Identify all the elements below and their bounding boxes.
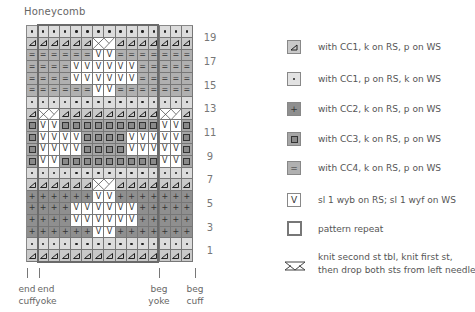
knit-cc4-cell: = [160,61,171,73]
knit-cc1-cell [182,179,193,191]
marker-label: beg yoke [144,283,174,307]
knit-cc2-cell: + [49,227,60,239]
row-number: 13 [203,103,217,114]
purl-cc1-cell [171,168,182,180]
purl-cc1-cell [49,97,60,109]
purl-cc1-cell [93,97,104,109]
knit-cc3-cell [27,120,38,132]
knit-cc2-cell: + [27,191,38,203]
knit-cc1-cell [149,250,160,262]
slip-cell: V [82,73,93,85]
knit-cc4-cell: = [60,85,71,97]
knit-cc2-cell: + [60,191,71,203]
purl-cc1-cell [60,238,71,250]
slip-cell: V [93,73,104,85]
knit-cc1-cell [38,250,49,262]
cross-right-cell [171,109,182,121]
knit-cc2-cell: + [182,215,193,227]
knit-cc2-cell: + [138,227,149,239]
knit-cc1-cell [71,38,82,50]
purl-cc1-cell [38,97,49,109]
knit-cc3-cell [82,156,93,168]
knit-cc3-cell [60,156,71,168]
purl-cc1-cell [160,168,171,180]
knit-cc4-cell: = [38,50,49,62]
knit-cc1-cell [160,38,171,50]
knit-cc3-cell [149,156,160,168]
purl-cc1-cell [171,238,182,250]
knit-cc4-cell: = [149,61,160,73]
purl-cc1-cell [82,238,93,250]
purl-cc1-cell [38,26,49,38]
marker-label: end yoke [31,283,61,307]
purl-cc1-cell [138,97,149,109]
purl-cc1-cell [116,168,127,180]
knit-cc1-cell [82,109,93,121]
knit-cc1-cell [160,179,171,191]
marker-tick [195,268,196,278]
purl-cc1-cell [160,97,171,109]
knit-cc2-cell: + [49,215,60,227]
knit-cc3-cell [71,120,82,132]
purl-cc1-cell [93,238,104,250]
knit-cc1-cell [104,109,115,121]
knit-cc4-cell: = [82,85,93,97]
slip-cell: V [93,85,104,97]
purl-cc1-cell [116,97,127,109]
knit-cc1-cell [71,250,82,262]
knit-cc2-cell: + [49,203,60,215]
slip-cell: V [104,203,115,215]
knit-cc2-cell: + [160,215,171,227]
purl-cc1-cell [127,238,138,250]
slip-cell: V [104,50,115,62]
knit-cc1-cell [27,179,38,191]
purl-cc1-cell [60,168,71,180]
knit-cc1-cell [127,179,138,191]
slip-cell: V [149,132,160,144]
slip-cell: V [138,144,149,156]
row-number: 5 [203,198,217,209]
knit-cc4-cell: = [127,50,138,62]
purl-cc1-cell [182,97,193,109]
marker-tick [27,268,28,278]
slip-cell: V [49,144,60,156]
knit-cc3-cell [104,144,115,156]
knit-cc2-cell: + [182,203,193,215]
purl-cc1-cell [93,26,104,38]
knit-cc1-cell [49,179,60,191]
knit-cc1-cell [38,38,49,50]
knit-cc4-cell: = [138,50,149,62]
knit-cc2-cell: + [27,215,38,227]
knit-cc4-cell: = [127,85,138,97]
knit-cc1-cell [27,250,38,262]
legend-item-cross: knit second st tbl, knit first st, then … [287,256,306,266]
knit-cc2-cell: + [182,191,193,203]
knit-cc3-cell [82,144,93,156]
knit-cc3-cell [27,144,38,156]
knit-cc1-cell [116,179,127,191]
knit-cc2-cell: + [182,227,193,239]
knit-cc2-cell: + [149,215,160,227]
knit-cc4-cell: = [182,50,193,62]
knit-cc1-cell [138,250,149,262]
purl-cc1-cell [71,238,82,250]
slip-cell: V [127,132,138,144]
slip-cell: V [160,132,171,144]
marker-label: beg cuff [180,283,210,307]
knit-cc1-cell [127,38,138,50]
knit-cc4-cell: = [27,50,38,62]
knit-cc3-cell [116,120,127,132]
purl-cc1-cell [27,238,38,250]
purl-cc1-cell [49,168,60,180]
knit-cc2-cell: + [38,203,49,215]
purl-cc1-cell [160,26,171,38]
knit-cc3-cell [149,120,160,132]
slip-cell: V [149,144,160,156]
slip-cell: V [104,227,115,239]
slip-cell: V [93,203,104,215]
knit-cc1-cell [171,250,182,262]
knit-cc4-cell: = [38,85,49,97]
purl-cc1-cell [138,26,149,38]
row-number: 19 [203,32,217,43]
knit-cc2-cell: + [116,191,127,203]
